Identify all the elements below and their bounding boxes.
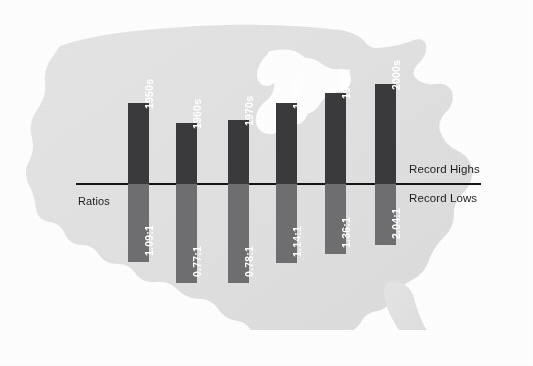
bar-segment-high-1990s (325, 93, 346, 184)
bar-decade-label-1980s: 1980s (292, 79, 303, 109)
record-lows-label: Record Lows (409, 192, 477, 204)
bar-segment-high-2000s (375, 84, 396, 184)
bar-segment-high-1960s (176, 123, 197, 184)
bar-1970s: 1970s0.78:1 (228, 120, 249, 283)
record-highs-label: Record Highs (409, 163, 480, 175)
bar-segment-high-1970s (228, 120, 249, 184)
bar-1950s: 1950s1.09:1 (128, 103, 149, 262)
bar-ratio-label-2000s: 2.04:1 (391, 208, 402, 239)
bar-decade-label-1960s: 1960s (192, 99, 203, 129)
bar-decade-label-1970s: 1970s (244, 96, 255, 126)
bar-chart: 1950s1.09:11960s0.77:11970s0.78:11980s1.… (0, 0, 533, 366)
bar-1990s: 1990s1.36:1 (325, 93, 346, 254)
bar-ratio-label-1960s: 0.77:1 (192, 246, 203, 277)
ratios-axis-label: Ratios (78, 195, 110, 207)
bar-decade-label-1950s: 1950s (144, 79, 155, 109)
bar-ratio-label-1950s: 1.09:1 (144, 225, 155, 256)
bar-segment-high-1980s (276, 103, 297, 184)
bar-segment-high-1950s (128, 103, 149, 184)
bar-ratio-label-1980s: 1.14:1 (292, 226, 303, 257)
bar-decade-label-2000s: 2000s (391, 60, 402, 90)
chart-canvas: 1950s1.09:11960s0.77:11970s0.78:11980s1.… (0, 0, 533, 366)
bar-1980s: 1980s1.14:1 (276, 103, 297, 263)
bar-2000s: 2000s2.04:1 (375, 84, 396, 245)
bar-1960s: 1960s0.77:1 (176, 123, 197, 283)
bar-ratio-label-1990s: 1.36:1 (341, 217, 352, 248)
bar-ratio-label-1970s: 0.78:1 (244, 246, 255, 277)
bar-decade-label-1990s: 1990s (341, 69, 352, 99)
